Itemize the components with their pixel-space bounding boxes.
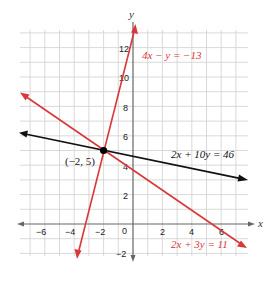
y-tick-label: 8 [123,103,128,113]
y-tick-label: −2 [116,249,126,259]
x-axis-label: x [257,217,263,229]
origin-label: 0 [122,226,127,236]
x-tick-label: −4 [65,227,75,237]
arrow-right-icon [238,175,249,182]
x-tick-label: 2 [160,227,165,237]
x-axis-arrow-right-icon [248,222,255,227]
y-tick-label: 2 [123,191,128,201]
y-axis-arrow-down-icon [131,255,136,262]
equation-label-red-shallow: 2x + 3y = 11 [171,238,228,250]
arrow-left-icon [19,131,28,138]
y-tick-label: 6 [123,132,128,142]
intersection-label: (−2, 5) [65,155,95,168]
equation-label-black: 2x + 10y = 46 [171,148,235,160]
axes [17,22,255,262]
y-tick-label: 12 [119,44,129,54]
grid [20,30,248,256]
x-tick-label: 4 [189,227,194,237]
x-tick-label: −2 [95,227,105,237]
x-axis-arrow-left-icon [17,222,24,227]
intersection-point [100,147,107,154]
arrow-down-icon [75,249,82,259]
x-tick-label: −6 [36,227,46,237]
y-axis-label: y [128,8,134,20]
x-tick-labels: −6 −4 −2 2 4 6 0 [36,226,224,237]
coordinate-plane: x y −6 −4 −2 2 4 6 0 12 10 8 6 4 2 −2 [0,0,271,284]
equation-label-red-steep: 4x − y = −13 [142,49,202,61]
arrow-up-left-icon [20,93,30,101]
arrow-up-icon [131,24,138,34]
